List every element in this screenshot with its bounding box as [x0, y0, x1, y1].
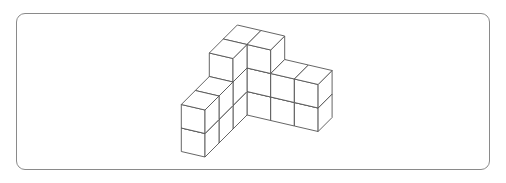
- cube-stack: [181, 25, 332, 157]
- cube-structure-figure: [0, 0, 506, 183]
